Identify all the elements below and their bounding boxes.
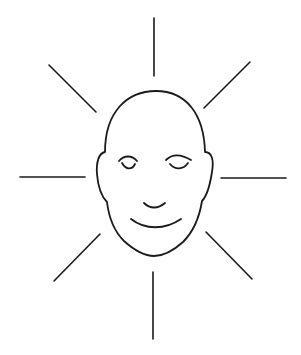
right-eyebrow-lid: [166, 156, 191, 161]
radiant-face-illustration: [0, 0, 301, 355]
ray-top-left: [49, 65, 96, 112]
right-eye-closed: [170, 163, 188, 168]
ray-bottom-left: [54, 234, 100, 281]
head-outline: [97, 91, 213, 256]
face: [97, 91, 213, 256]
left-eyebrow-lid: [119, 157, 137, 162]
ray-bottom-right: [206, 232, 252, 279]
chin-line: [131, 219, 181, 227]
ray-top-right: [204, 62, 250, 108]
left-eye-closed: [122, 163, 135, 168]
smile: [144, 203, 165, 208]
rays: [20, 18, 286, 339]
